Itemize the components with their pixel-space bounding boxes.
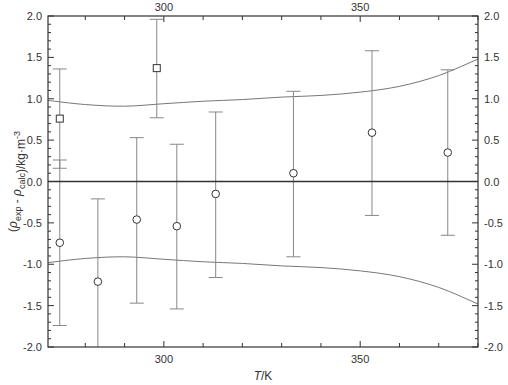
x-axis-title: T/K <box>254 369 273 383</box>
y-tick-label-right: -0.5 <box>484 217 503 229</box>
x-tick-label-top: 350 <box>351 1 369 13</box>
x-tick-label-top: 300 <box>155 1 173 13</box>
upper-uncertainty-band <box>48 59 478 106</box>
tick-labels: 300300350350-2.0-2.0-1.5-1.5-1.0-1.0-0.5… <box>23 1 503 365</box>
y-tick-label-right: 0.0 <box>484 176 499 188</box>
square-marker <box>56 115 63 122</box>
x-tick-label-bottom: 350 <box>351 353 369 365</box>
y-tick-label-right: 1.0 <box>484 93 499 105</box>
circle-marker <box>444 149 452 157</box>
y-tick-label-left: -1.0 <box>23 258 42 270</box>
y-tick-label-left: -1.5 <box>23 300 42 312</box>
y-tick-label-left: 0.0 <box>27 176 42 188</box>
y-tick-label-left: 0.5 <box>27 134 42 146</box>
square-marker <box>153 65 160 72</box>
y-tick-label-left: 1.0 <box>27 93 42 105</box>
circle-marker <box>173 222 181 230</box>
y-tick-label-right: 0.5 <box>484 134 499 146</box>
y-tick-label-left: 1.5 <box>27 51 42 63</box>
circle-marker <box>56 239 64 247</box>
y-tick-label-right: 2.0 <box>484 10 499 22</box>
y-tick-label-right: -1.5 <box>484 300 503 312</box>
data-markers <box>56 65 452 286</box>
chart: 300300350350-2.0-2.0-1.5-1.5-1.0-1.0-0.5… <box>0 0 508 385</box>
y-tick-label-right: -1.0 <box>484 258 503 270</box>
y-tick-label-left: -0.5 <box>23 217 42 229</box>
circle-marker <box>212 190 220 198</box>
y-tick-label-right: -2.0 <box>484 341 503 353</box>
x-tick-label-bottom: 300 <box>155 353 173 365</box>
y-tick-label-left: 2.0 <box>27 10 42 22</box>
error-bars <box>53 19 455 347</box>
lower-uncertainty-band <box>48 257 478 304</box>
circle-marker <box>290 169 298 177</box>
y-tick-label-right: 1.5 <box>484 51 499 63</box>
circle-marker <box>94 278 102 286</box>
y-tick-label-left: -2.0 <box>23 341 42 353</box>
circle-marker <box>368 129 376 137</box>
circle-marker <box>133 216 141 224</box>
